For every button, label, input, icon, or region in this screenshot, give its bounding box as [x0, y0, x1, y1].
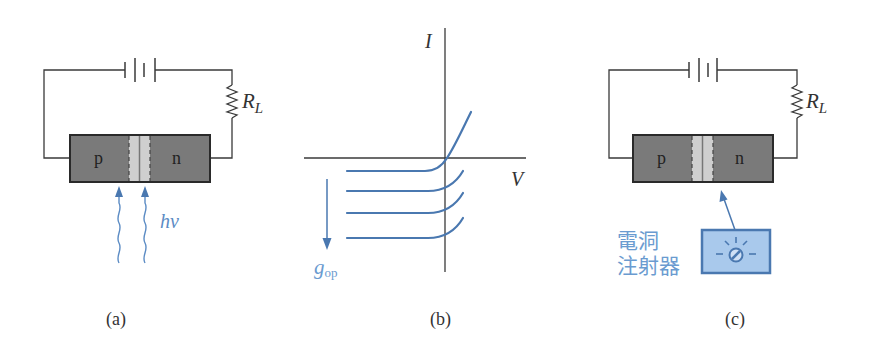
caption-a: (a) [106, 309, 126, 330]
x-axis-label: V [511, 168, 526, 190]
gop-label: gop [314, 255, 338, 280]
caption-c: (c) [725, 309, 745, 330]
arrowhead-icon [323, 238, 332, 250]
panel-a: RL p n hv (a) [44, 58, 263, 330]
panel-c: RL p n (c) [609, 58, 827, 330]
resistor-icon [792, 85, 802, 118]
panel-b: I V gop (b) [304, 28, 526, 330]
n-region-label: n [735, 148, 744, 168]
iv-curve-dark [347, 112, 471, 171]
hole-injector-label-line2: 注射器 [617, 254, 680, 279]
iv-curves [347, 112, 471, 238]
y-axis-label: I [424, 30, 433, 52]
injection-arrow [724, 199, 735, 230]
caption-b: (b) [430, 309, 451, 330]
battery-icon [125, 58, 155, 82]
photon-energy-label: hv [160, 210, 179, 232]
photodiode-figure: RL p n hv (a) I V [0, 0, 872, 354]
n-region-label: n [172, 148, 181, 168]
battery-icon [689, 58, 717, 82]
p-region-label: p [657, 148, 666, 168]
hole-injector-box [702, 230, 770, 273]
pn-diode: p n [633, 135, 773, 182]
pn-diode: p n [70, 135, 210, 182]
arrowhead-icon [141, 186, 149, 197]
load-resistor-label: RL [805, 89, 827, 116]
p-region-label: p [94, 148, 103, 168]
photon-arrow-icon [118, 194, 146, 263]
resistor-icon [227, 85, 237, 118]
hole-injector-label: 電洞 注射器 [617, 229, 680, 279]
hole-injector-label-line1: 電洞 [617, 229, 680, 254]
load-resistor-label: RL [241, 89, 263, 116]
arrowhead-icon [720, 190, 728, 202]
arrowhead-icon [115, 186, 123, 197]
